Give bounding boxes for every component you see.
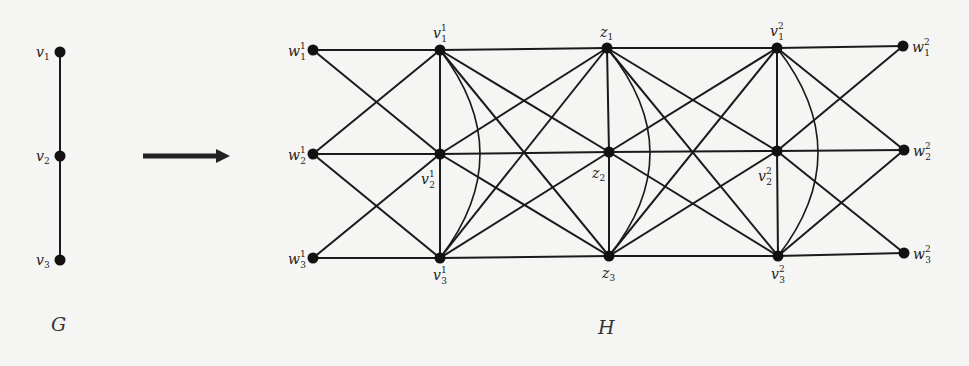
h-node-v31 [435,253,446,264]
g-node-v2 [55,151,66,162]
h-node-w32 [899,248,910,259]
h-label-v21: v12 [421,169,435,190]
h-label-w32: w23 [913,244,931,265]
g-label-v2: v2 [36,148,50,166]
h-node-z2 [604,147,615,158]
h-label-w22: w22 [913,141,931,162]
h-node-w22 [899,145,910,156]
g-node-v1 [55,47,66,58]
graph-h-caption: H [597,316,615,338]
h-node-v22 [772,146,783,157]
g-label-v1: v1 [36,44,50,62]
h-label-v31: v13 [433,265,447,286]
h-node-v32 [773,251,784,262]
h-node-z1 [602,43,613,54]
h-label-v22: v22 [758,166,772,187]
h-node-v12 [772,43,783,54]
h-label-z3: z3 [601,265,615,283]
graph-g-caption: G [51,313,66,335]
h-label-v32: v23 [771,264,785,285]
h-edge-v21-z1 [440,48,607,154]
h-label-w11: w11 [288,41,306,62]
h-edge-v31-z2 [440,152,609,258]
h-node-v21 [435,149,446,160]
h-edge-v32-w32 [778,253,904,256]
h-edge-v11-z1 [440,48,607,50]
h-label-v12: v21 [770,21,784,42]
h-node-z3 [604,251,615,262]
transform-arrow-icon [143,149,230,163]
h-edge-v22-v32 [777,151,778,256]
graph-g-nodes: v1v2v3 [36,44,66,270]
h-node-w21 [308,149,319,160]
h-edge-v12-w12 [777,46,903,48]
g-label-v3: v3 [36,252,50,270]
h-node-w12 [898,41,909,52]
g-node-v3 [55,255,66,266]
h-label-z1: z1 [599,24,613,42]
graph-transformation-diagram: v1v2v3 w11w12w13v11v12v13z1z2z3v21v22v23… [0,0,969,366]
h-label-w12: w21 [912,37,930,58]
h-curve-v12-v32 [777,48,818,256]
h-edge-v22-w22 [777,150,904,151]
h-label-z2: z2 [591,165,605,183]
h-edge-z1-z2 [607,48,609,152]
h-node-w11 [308,45,319,56]
h-node-w31 [308,253,319,264]
h-label-v11: v11 [433,23,447,44]
h-node-v11 [435,45,446,56]
h-edge-v31-z3 [440,256,609,258]
h-label-w31: w13 [288,249,306,270]
h-label-w21: w12 [288,145,306,166]
